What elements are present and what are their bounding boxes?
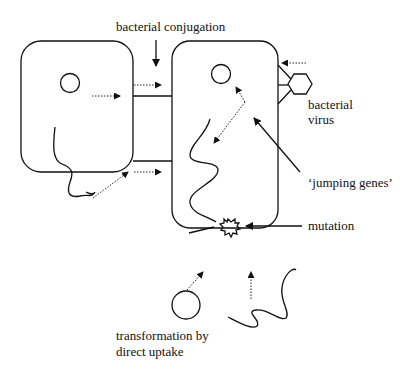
transformation-arrow-icon [187,272,203,290]
virus-leg-1 [278,65,291,79]
mutation-label: mutation [308,218,355,233]
donor-plasmid-icon [61,74,80,93]
recipient-cell [172,41,278,228]
free-plasmid-icon [172,291,200,319]
bacterial-gene-transfer-diagram: bacterial conjugation ‘jumping genes’ mu… [0,0,416,373]
free-dna-fragment-icon [228,269,296,327]
virus-label-line2: virus [308,112,334,127]
recipient-plasmid-icon [212,65,231,84]
jumping-genes-pointer-icon [254,118,300,172]
conjugation-label: bacterial conjugation [116,19,226,34]
virus-leg-3 [278,90,291,104]
donor-chromosome-icon [54,127,95,196]
bacterial-virus-icon [288,74,312,94]
jumping-gene-arrow-up-icon [236,87,245,102]
recipient-chromosome-icon [190,119,218,222]
virus-label-line1: bacterial [308,97,353,112]
donor-cell [21,41,133,172]
chromosome-transfer-arrow-icon [93,172,128,198]
jumping-genes-label: ‘jumping genes’ [308,175,393,190]
jumping-gene-arrow-down-icon [214,102,245,143]
transformation-label-line2: direct uptake [116,344,184,359]
transformation-label-line1: transformation by [116,328,209,343]
